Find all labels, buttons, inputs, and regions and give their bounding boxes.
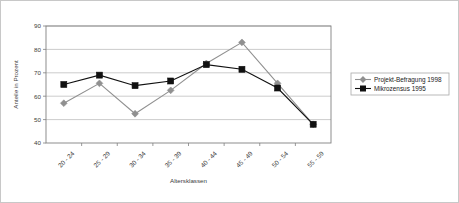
y-tick-label: 90	[34, 22, 41, 29]
legend-marker-square	[360, 86, 366, 92]
x-tick-label: 50 - 54	[270, 149, 289, 168]
data-point[interactable]	[203, 62, 209, 68]
x-tick-label: 25 - 29	[92, 149, 111, 168]
x-tick-label: 40 - 44	[199, 149, 218, 168]
plot-border	[46, 26, 331, 143]
x-axis-title: Altersklassen	[170, 177, 207, 184]
data-point[interactable]	[239, 66, 245, 72]
y-tick-label: 50	[34, 116, 41, 123]
legend-label-1: Projekt-Befragung 1998	[374, 76, 442, 84]
y-tick-label: 60	[34, 93, 41, 100]
legend-label-2: Mikrozensus 1995	[374, 85, 426, 92]
data-point[interactable]	[60, 100, 67, 107]
data-point[interactable]	[275, 85, 281, 91]
line-chart: 40506070809020 - 2425 - 2930 - 3435 - 39…	[7, 7, 453, 197]
y-tick-label: 70	[34, 69, 41, 76]
x-tick-label: 45 - 49	[235, 149, 254, 168]
x-tick-label: 20 - 24	[56, 149, 75, 168]
x-tick-label: 55 - 59	[306, 149, 325, 168]
data-point[interactable]	[96, 72, 102, 78]
y-tick-label: 40	[34, 139, 41, 146]
x-tick-label: 30 - 34	[128, 149, 147, 168]
y-axis-title: Anteile in Prozent	[12, 60, 19, 109]
x-tick-label: 35 - 39	[163, 149, 182, 168]
y-tick-label: 80	[34, 46, 41, 53]
data-point[interactable]	[168, 78, 174, 84]
data-point[interactable]	[61, 82, 67, 88]
chart-canvas: 40506070809020 - 2425 - 2930 - 3435 - 39…	[7, 7, 453, 197]
data-point[interactable]	[132, 83, 138, 89]
image-frame: 40506070809020 - 2425 - 2930 - 3435 - 39…	[0, 0, 459, 203]
data-point[interactable]	[310, 121, 316, 127]
